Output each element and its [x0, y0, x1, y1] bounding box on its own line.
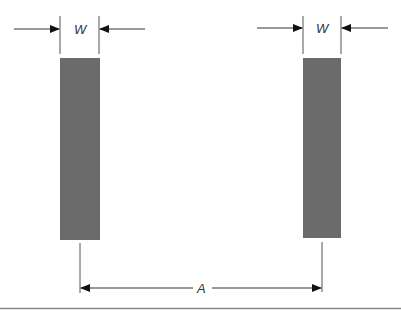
spacing-diagram: W W A — [0, 0, 401, 310]
right-bar — [303, 58, 341, 238]
left-width-label: W — [74, 22, 88, 37]
spacing-label: A — [196, 281, 206, 296]
right-width-label: W — [316, 21, 330, 36]
left-bar — [60, 58, 100, 240]
